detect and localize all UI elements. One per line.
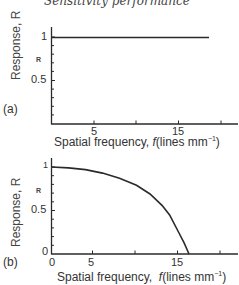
chart-a-panel-label: (a)	[3, 102, 18, 116]
chart-a-ytick-1: 1	[41, 30, 47, 42]
chart-a-xlabel-unit: (lines mm	[156, 135, 208, 149]
chart-b-ytick-1: 1	[43, 160, 48, 170]
chart-a-x-axis-title: Spatial frequency, f(lines mm−1)	[54, 135, 220, 149]
chart-b-x-axis-title: Spatial frequency, f(lines mm−1)	[57, 270, 226, 284]
chart-b-xtick-0: 0	[49, 256, 55, 268]
chart-b-panel-label: (b)	[3, 255, 18, 269]
chart-b-ytick-0: 0	[42, 245, 48, 257]
chart-a-axis-marker: R	[36, 56, 41, 63]
chart-a-ytick-0-5: 0.5	[31, 73, 46, 85]
chart-b-xlabel-exp: −1	[214, 270, 222, 277]
chart-b-ytick-0-5: 0.5	[31, 203, 46, 215]
chart-a-xlabel-exp: −1	[208, 135, 216, 142]
chart-b-axis-marker: R	[36, 187, 41, 194]
chart-a	[52, 27, 239, 125]
chart-a-xlabel-main: Spatial frequency,	[54, 135, 153, 149]
chart-b-xlabel-main: Spatial frequency,	[57, 270, 159, 284]
chart-b	[52, 158, 239, 255]
chart-b-xlabel-close: )	[222, 270, 226, 284]
chart-b-xtick-15: 15	[171, 256, 183, 268]
chart-b-xlabel-unit: (lines mm	[162, 270, 214, 284]
chart-b-y-axis-title: Response, R	[9, 178, 23, 247]
chart-b-response-curve	[52, 167, 190, 254]
chart-a-y-axis-title: Response, R	[9, 11, 23, 80]
chart-a-xlabel-close: )	[216, 135, 220, 149]
chart-b-xtick-5: 5	[88, 256, 94, 268]
